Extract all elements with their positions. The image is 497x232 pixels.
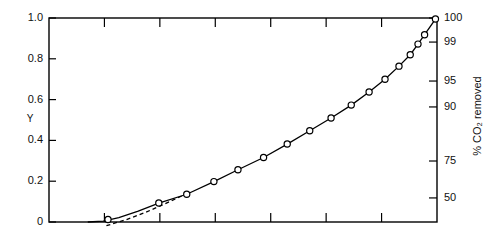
data-point xyxy=(382,76,388,82)
data-curve xyxy=(88,19,436,222)
left-axis-title: Y xyxy=(27,113,34,124)
data-point xyxy=(407,52,413,58)
data-point xyxy=(432,16,438,22)
data-point xyxy=(328,115,334,121)
figure-container: 00.20.40.60.81.0 5075909599100 Y % CO₂ r… xyxy=(0,0,497,232)
data-point xyxy=(415,41,421,47)
plot-area-border xyxy=(49,18,437,222)
right-axis-ticks xyxy=(429,18,437,198)
data-point xyxy=(156,200,162,206)
data-point xyxy=(105,216,111,222)
right-tick-label: 90 xyxy=(444,100,456,112)
left-tick-label: 0.6 xyxy=(28,93,43,105)
right-tick-label: 75 xyxy=(444,154,456,166)
left-axis-ticks xyxy=(49,18,56,222)
left-tick-label: 0.4 xyxy=(28,133,43,145)
bottom-axis-ticks xyxy=(104,213,381,222)
left-tick-label: 0.8 xyxy=(28,52,43,64)
right-axis-tick-labels: 5075909599100 xyxy=(444,11,462,203)
data-point xyxy=(421,32,427,38)
plot-frame xyxy=(49,18,437,222)
left-tick-label: 0.2 xyxy=(28,174,43,186)
data-point xyxy=(284,141,290,147)
left-tick-label: 1.0 xyxy=(28,11,43,23)
data-point xyxy=(211,179,217,185)
reference-dashed-line xyxy=(106,195,182,225)
data-point xyxy=(184,191,190,197)
left-tick-label: 0 xyxy=(37,215,43,227)
right-tick-label: 50 xyxy=(444,191,456,203)
right-tick-label: 99 xyxy=(444,35,456,47)
right-tick-label: 95 xyxy=(444,74,456,86)
data-point xyxy=(307,128,313,134)
data-point xyxy=(366,89,372,95)
chart-canvas: 00.20.40.60.81.0 5075909599100 Y % CO₂ r… xyxy=(0,0,497,232)
data-point xyxy=(396,63,402,69)
data-point xyxy=(235,167,241,173)
data-point-markers xyxy=(105,16,439,223)
data-point xyxy=(348,102,354,108)
right-tick-label: 100 xyxy=(444,11,462,23)
top-axis-ticks xyxy=(104,18,381,27)
data-point xyxy=(260,154,266,160)
right-axis-title: % CO₂ removed xyxy=(471,76,483,155)
